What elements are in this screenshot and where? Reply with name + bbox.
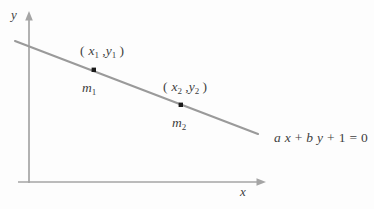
eq-plus-2: +: [327, 130, 335, 145]
x-axis-label: x: [240, 185, 246, 198]
eq-rhs: 0: [361, 130, 368, 145]
paren-open-1: (: [80, 43, 85, 58]
y-axis: [25, 11, 33, 183]
line-equation-label: a x + b y + 1 = 0: [274, 131, 368, 145]
m-var-2: m: [172, 115, 182, 130]
paren-open-2: (: [163, 79, 168, 94]
m-var-1: m: [82, 80, 92, 95]
m-sub-1: 1: [92, 87, 97, 97]
eq-a: a: [274, 130, 281, 145]
x-sub-2: 2: [177, 86, 182, 96]
paren-close-1: ): [120, 43, 125, 58]
point-1-coordinate-label: ( x1 ,y1 ): [80, 44, 125, 58]
x-axis: [18, 178, 266, 185]
eq-equals: =: [349, 130, 357, 145]
y-var-1: y: [106, 43, 112, 58]
point-marker-1: [92, 68, 96, 72]
point-marker-2: [179, 103, 183, 107]
y-axis-label: y: [11, 8, 17, 21]
eq-y: y: [317, 130, 323, 145]
m-sub-2: 2: [182, 122, 187, 132]
y-var-2: y: [189, 79, 195, 94]
plotted-line: [15, 41, 258, 134]
y-sub-2: 2: [195, 86, 200, 96]
x-sub-1: 1: [94, 50, 99, 60]
paren-close-2: ): [203, 79, 208, 94]
eq-x: x: [285, 130, 291, 145]
eq-constant: 1: [339, 130, 346, 145]
y-sub-1: 1: [112, 50, 117, 60]
point-2-slope-label: m2: [172, 116, 186, 130]
eq-b: b: [306, 130, 313, 145]
figure-canvas: y x ( x1 ,y1 ) m1 ( x2 ,y2 ) m2 a x + b …: [0, 0, 374, 209]
eq-plus-1: +: [295, 130, 303, 145]
point-1-slope-label: m1: [82, 81, 96, 95]
line-diagram-svg: [0, 0, 374, 209]
point-2-coordinate-label: ( x2 ,y2 ): [163, 80, 208, 94]
